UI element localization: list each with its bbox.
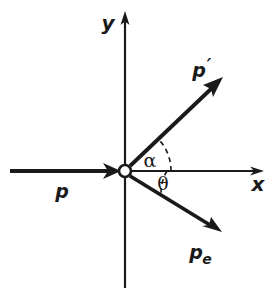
vector-p-prime-label-group: p ′	[191, 55, 212, 81]
vector-p-prime-label: p	[191, 59, 206, 81]
alpha-angle-label: α	[144, 149, 157, 171]
origin-marker-icon	[119, 165, 131, 177]
theta-angle-label: θ	[157, 172, 168, 194]
compton-scattering-diagram: y x p p ′ p e α θ	[0, 0, 280, 300]
vector-pe-label-group: p e	[188, 241, 212, 267]
x-axis-label: x	[251, 172, 266, 196]
y-axis-group	[121, 11, 130, 288]
vector-pe-arrowhead	[202, 217, 222, 232]
vector-pe-shaft	[130, 176, 210, 225]
vector-pe-subscript: e	[202, 251, 212, 267]
vector-pe-label: p	[188, 241, 203, 263]
vector-pe-electron	[130, 176, 222, 232]
vector-p-prime-shaft	[130, 88, 212, 166]
vector-p-incident	[10, 163, 121, 179]
alpha-arc	[158, 139, 171, 171]
figure-root: y x p p ′ p e α θ	[0, 0, 280, 300]
vector-p-prime-prime-mark: ′	[207, 55, 212, 75]
vector-p-label: p	[54, 180, 69, 202]
y-axis-label: y	[101, 11, 115, 35]
